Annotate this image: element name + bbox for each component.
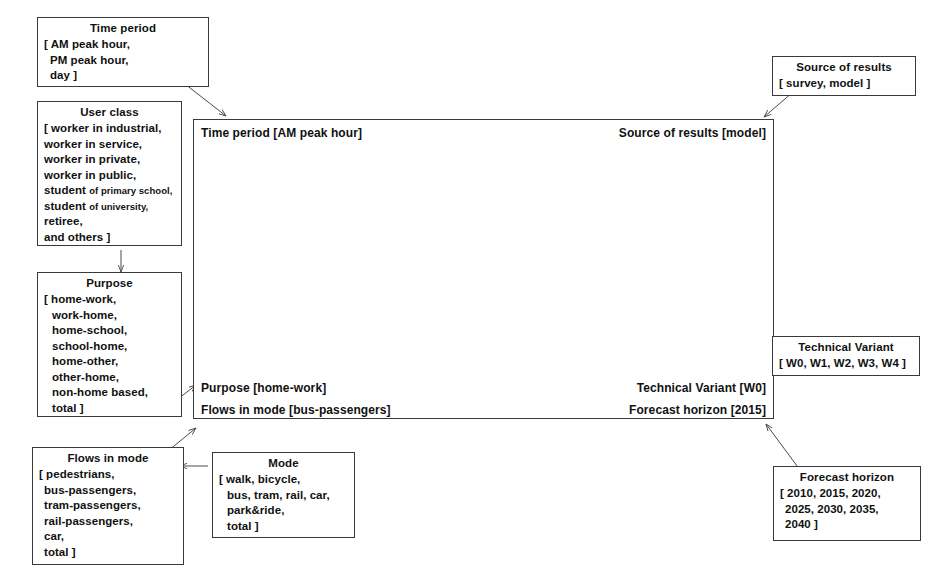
box-source-of-results-title: Source of results [779,60,909,75]
diagram-canvas: Time period [AM peak hour] Source of res… [0,0,952,586]
list-item: car, [39,529,177,545]
box-purpose[interactable]: Purpose [ home-work, work-home, home-sch… [37,272,182,417]
list-item: worker in public, [44,168,175,184]
list-item: day ] [44,68,202,84]
box-user-class[interactable]: User class [ worker in industrial, worke… [37,101,182,246]
box-purpose-list: [ home-work, work-home, home-school, sch… [44,292,175,416]
list-item-detail: of university, [89,201,148,212]
box-technical-variant-list: [ W0, W1, W2, W3, W4 ] [779,356,913,372]
box-forecast-horizon-title: Forecast horizon [780,470,914,485]
list-item: bus, tram, rail, car, [219,488,348,504]
box-source-of-results[interactable]: Source of results [ survey, model ] [772,56,916,96]
panel-label-purpose: Purpose [home-work] [201,381,326,395]
arrow-forecast-horizon [766,424,800,470]
list-item: total ] [39,545,177,561]
list-item: retiree, [44,214,175,230]
list-item: other-home, [44,370,175,386]
list-item: work-home, [44,308,175,324]
panel-label-time-period: Time period [AM peak hour] [201,126,362,140]
list-item-main: student [44,184,86,196]
box-mode-list: [ walk, bicycle, bus, tram, rail, car, p… [219,472,348,534]
list-item: [ pedestrians, [39,467,177,483]
list-item: PM peak hour, [44,53,202,69]
list-item: home-other, [44,354,175,370]
list-item: bus-passengers, [39,483,177,499]
box-mode[interactable]: Mode [ walk, bicycle, bus, tram, rail, c… [212,452,355,538]
list-item: tram-passengers, [39,498,177,514]
list-item: home-school, [44,323,175,339]
list-item: 2025, 2030, 2035, [780,502,914,518]
box-technical-variant-title: Technical Variant [779,340,913,355]
list-item: [ W0, W1, W2, W3, W4 ] [779,356,913,372]
box-technical-variant[interactable]: Technical Variant [ W0, W1, W2, W3, W4 ] [772,336,920,376]
list-item-detail: of primary school, [89,185,172,196]
box-purpose-title: Purpose [44,276,175,291]
list-item: [ AM peak hour, [44,37,202,53]
box-flows-in-mode-list: [ pedestrians, bus-passengers, tram-pass… [39,467,177,560]
list-item: [ survey, model ] [779,76,909,92]
list-item: worker in service, [44,137,175,153]
panel-label-technical-variant: Technical Variant [W0] [637,381,766,395]
arrow-time-period [185,84,226,116]
list-item: park&ride, [219,503,348,519]
list-item-main: student [44,200,86,212]
list-item: total ] [219,519,348,535]
box-time-period-title: Time period [44,21,202,36]
result-view-panel [193,119,774,419]
list-item: and others ] [44,230,175,246]
box-time-period[interactable]: Time period [ AM peak hour, PM peak hour… [37,17,209,87]
box-forecast-horizon[interactable]: Forecast horizon [ 2010, 2015, 2020, 202… [773,466,921,541]
list-item: [ home-work, [44,292,175,308]
list-item: student of primary school, [44,183,175,199]
list-item: total ] [44,401,175,417]
box-source-of-results-list: [ survey, model ] [779,76,909,92]
panel-label-source-of-results: Source of results [model] [619,126,766,140]
box-time-period-list: [ AM peak hour, PM peak hour, day ] [44,37,202,84]
list-item: student of university, [44,199,175,215]
list-item: non-home based, [44,385,175,401]
list-item: worker in private, [44,152,175,168]
list-item: [ worker in industrial, [44,121,175,137]
list-item: 2040 ] [780,517,914,533]
box-flows-in-mode[interactable]: Flows in mode [ pedestrians, bus-passeng… [32,447,184,565]
box-mode-title: Mode [219,456,348,471]
list-item: rail-passengers, [39,514,177,530]
panel-label-flows-in-mode: Flows in mode [bus-passengers] [201,403,391,417]
box-user-class-list: [ worker in industrial, worker in servic… [44,121,175,245]
list-item: school-home, [44,339,175,355]
list-item: [ walk, bicycle, [219,472,348,488]
box-user-class-title: User class [44,105,175,120]
box-forecast-horizon-list: [ 2010, 2015, 2020, 2025, 2030, 2035, 20… [780,486,914,533]
panel-label-forecast-horizon: Forecast horizon [2015] [629,403,766,417]
list-item: [ 2010, 2015, 2020, [780,486,914,502]
box-flows-in-mode-title: Flows in mode [39,451,177,466]
